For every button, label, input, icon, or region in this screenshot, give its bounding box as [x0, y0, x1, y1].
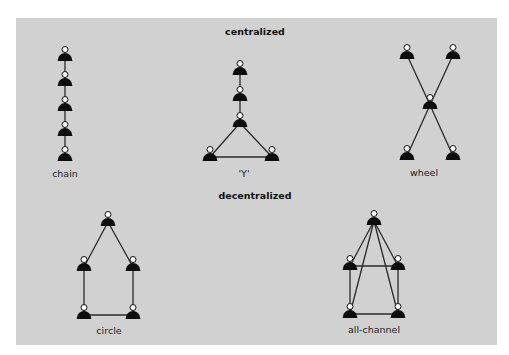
- centralized-title: centralized: [225, 26, 285, 37]
- connection-line: [84, 222, 108, 267]
- connection-line: [108, 222, 133, 267]
- person-icon: [423, 95, 438, 110]
- communication-networks-diagram: centralized decentralized chain 'Y' whee…: [0, 0, 509, 355]
- person-icon: [233, 87, 248, 102]
- chain-label: chain: [52, 168, 78, 179]
- network-wheel: wheel: [400, 45, 461, 179]
- decentralized-title: decentralized: [218, 190, 291, 201]
- person-icon: [233, 61, 248, 76]
- connection-line: [240, 123, 272, 157]
- person-icon: [58, 122, 73, 137]
- person-icon: [58, 147, 73, 162]
- person-icon: [400, 45, 415, 60]
- all-channel-edges: [350, 221, 398, 314]
- person-icon: [400, 146, 415, 161]
- circle-nodes: [77, 212, 141, 320]
- person-icon: [77, 305, 92, 320]
- person-icon: [367, 211, 382, 226]
- circle-label: circle: [96, 325, 121, 336]
- connection-line: [350, 221, 374, 266]
- all-channel-nodes: [343, 211, 406, 319]
- person-icon: [343, 304, 358, 319]
- network-circle: circle: [77, 212, 141, 337]
- person-icon: [58, 72, 73, 87]
- person-icon: [58, 97, 73, 112]
- circle-edges: [84, 222, 133, 315]
- y-label: 'Y': [238, 168, 249, 179]
- connection-line: [374, 221, 398, 266]
- person-icon: [77, 257, 92, 272]
- person-icon: [391, 304, 406, 319]
- person-icon: [391, 256, 406, 271]
- person-icon: [203, 147, 218, 162]
- network-all-channel: all-channel: [343, 211, 406, 336]
- wheel-nodes: [400, 45, 461, 161]
- person-icon: [446, 45, 461, 60]
- person-icon: [126, 305, 141, 320]
- network-y: 'Y': [203, 61, 280, 180]
- all-channel-label: all-channel: [348, 324, 400, 335]
- person-icon: [446, 146, 461, 161]
- connection-line: [210, 123, 240, 157]
- wheel-label: wheel: [410, 167, 438, 178]
- person-icon: [233, 113, 248, 128]
- person-icon: [58, 47, 73, 62]
- person-icon: [101, 212, 116, 227]
- person-icon: [343, 256, 358, 271]
- network-chain: chain: [52, 47, 78, 180]
- y-nodes: [203, 61, 280, 162]
- person-icon: [265, 147, 280, 162]
